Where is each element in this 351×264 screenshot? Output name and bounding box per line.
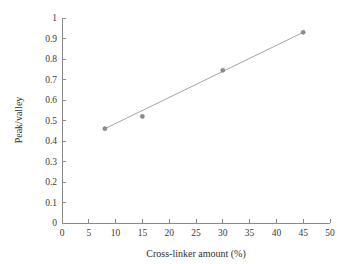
x-tick-label: 50 — [325, 228, 335, 238]
y-tick-label: 0.1 — [45, 198, 57, 208]
y-tick-label: 0.3 — [45, 157, 57, 167]
x-tick-label: 20 — [164, 228, 174, 238]
y-tick-label: 0.2 — [45, 177, 57, 187]
x-tick-label: 25 — [191, 228, 201, 238]
x-tick-label: 40 — [272, 228, 282, 238]
x-tick-label: 0 — [60, 228, 65, 238]
y-tick-label: 1 — [52, 13, 57, 23]
data-point — [301, 30, 305, 34]
y-tick-label: 0.7 — [45, 75, 57, 85]
data-point — [140, 114, 144, 118]
trend-line — [105, 32, 303, 128]
data-point — [221, 68, 225, 72]
y-tick-label: 0.5 — [45, 116, 57, 126]
x-tick-label: 5 — [86, 228, 91, 238]
scatter-plot: 00.10.20.30.40.50.60.70.80.91 0510152025… — [0, 0, 351, 264]
x-tick-label: 45 — [298, 228, 308, 238]
y-tick-label: 0.6 — [45, 95, 57, 105]
y-tick-label: 0 — [52, 218, 57, 228]
data-point — [103, 127, 107, 131]
chart-figure: 00.10.20.30.40.50.60.70.80.91 0510152025… — [0, 0, 351, 264]
y-axis-ticks: 00.10.20.30.40.50.60.70.80.91 — [45, 13, 66, 228]
y-tick-label: 0.8 — [45, 54, 57, 64]
x-axis-ticks: 05101520253035404550 — [60, 219, 335, 238]
x-tick-label: 30 — [218, 228, 228, 238]
trend-line-segment — [105, 32, 303, 128]
y-axis-title: Peak/valley — [13, 97, 24, 144]
x-axis-title: Cross-linker amount (%) — [146, 248, 245, 260]
y-tick-label: 0.4 — [45, 136, 57, 146]
x-tick-label: 35 — [245, 228, 255, 238]
y-tick-label: 0.9 — [45, 34, 57, 44]
x-tick-label: 10 — [111, 228, 121, 238]
x-tick-label: 15 — [138, 228, 148, 238]
